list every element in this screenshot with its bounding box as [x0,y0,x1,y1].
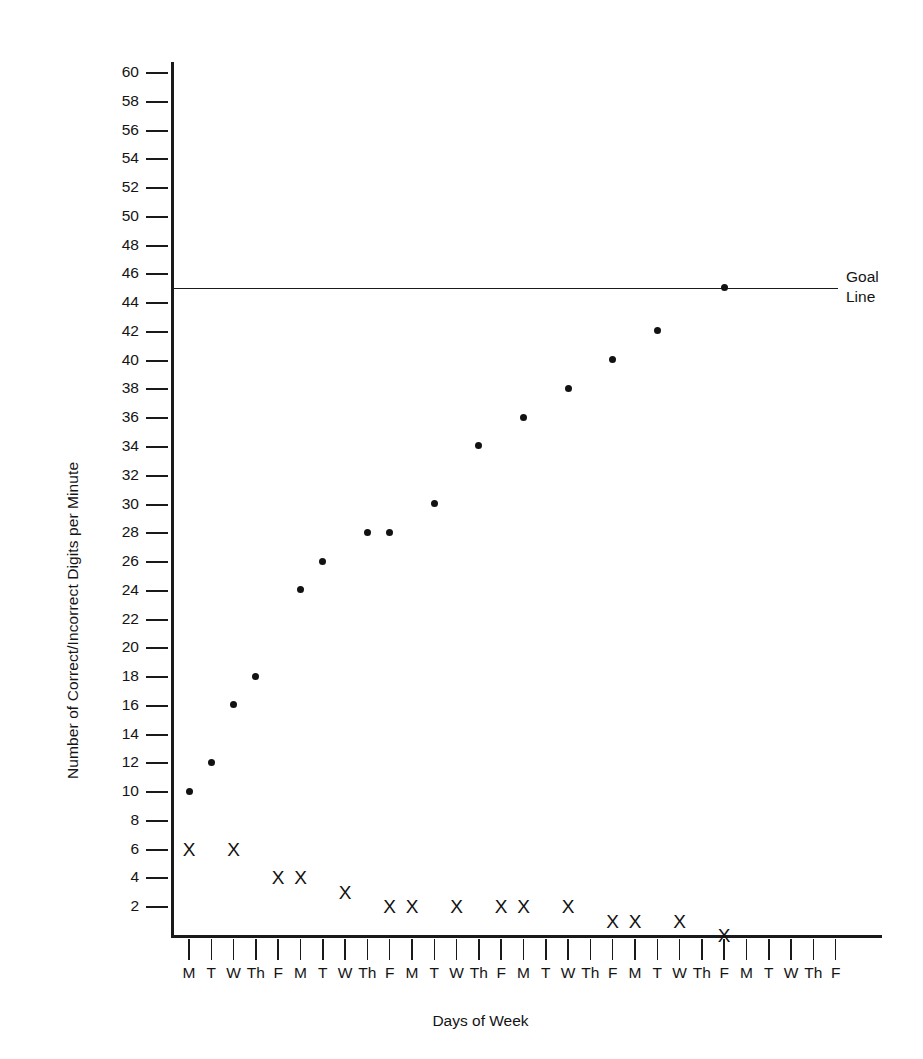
data-point-dot [297,586,304,593]
data-point-x: X [714,926,734,945]
y-tick-label: 46 [82,265,139,281]
x-tick-mark [367,939,369,960]
x-tick-mark [434,939,436,960]
data-point-x: X [625,912,645,931]
y-tick-mark [146,906,168,908]
data-point-x: X [491,897,511,916]
y-tick-label: 52 [82,179,139,195]
data-point-x: X [514,897,534,916]
x-tick-mark [411,939,413,960]
y-tick-mark [146,791,168,793]
data-point-dot [520,414,527,421]
y-tick-label: 54 [82,150,139,166]
y-tick-label: 28 [82,524,139,540]
data-point-x: X [380,897,400,916]
y-tick-label: 48 [82,237,139,253]
x-tick-mark [567,939,569,960]
y-tick-mark [146,820,168,822]
x-tick-mark [634,939,636,960]
y-tick-mark [146,619,168,621]
y-tick-label: 14 [82,726,139,742]
y-tick-mark [146,216,168,218]
y-tick-label: 30 [82,496,139,512]
data-point-dot [609,356,616,363]
y-tick-mark [146,360,168,362]
x-tick-mark [478,939,480,960]
y-tick-mark [146,504,168,506]
x-tick-mark [344,939,346,960]
y-axis-title: Number of Correct/Incorrect Digits per M… [64,462,82,779]
y-tick-label: 16 [82,697,139,713]
y-tick-label: 26 [82,553,139,569]
y-tick-label: 12 [82,754,139,770]
data-point-dot [475,442,482,449]
data-point-x: X [402,897,422,916]
x-tick-mark [211,939,213,960]
y-tick-label: 24 [82,582,139,598]
y-tick-mark [146,72,168,74]
x-tick-mark [657,939,659,960]
chart-canvas: Number of Correct/Incorrect Digits per M… [0,0,923,1059]
y-tick-mark [146,130,168,132]
data-point-dot [386,529,393,536]
y-tick-label: 22 [82,611,139,627]
y-tick-label: 38 [82,380,139,396]
data-point-x: X [335,883,355,902]
x-tick-mark [679,939,681,960]
y-tick-mark [146,734,168,736]
data-point-dot [364,529,371,536]
goal-line-label-line1: Goal [846,267,879,287]
y-tick-label: 40 [82,352,139,368]
data-point-x: X [268,868,288,887]
y-tick-label: 60 [82,64,139,80]
y-tick-mark [146,187,168,189]
x-tick-mark [590,939,592,960]
data-point-x: X [447,897,467,916]
y-tick-label: 4 [82,869,139,885]
y-tick-mark [146,647,168,649]
y-tick-mark [146,388,168,390]
x-tick-mark [255,939,257,960]
data-point-dot [230,701,237,708]
y-tick-mark [146,590,168,592]
x-tick-mark [701,939,703,960]
data-point-x: X [558,897,578,916]
x-tick-mark [188,939,190,960]
x-tick-mark [277,939,279,960]
y-tick-mark [146,762,168,764]
y-tick-mark [146,302,168,304]
x-tick-mark [746,939,748,960]
y-tick-label: 18 [82,668,139,684]
goal-line [172,288,838,289]
x-tick-label: F [821,965,851,981]
y-tick-mark [146,245,168,247]
x-tick-mark [768,939,770,960]
y-tick-label: 44 [82,294,139,310]
x-tick-mark [322,939,324,960]
y-tick-mark [146,705,168,707]
y-tick-label: 56 [82,122,139,138]
y-tick-label: 42 [82,323,139,339]
y-tick-label: 20 [82,639,139,655]
y-tick-mark [146,849,168,851]
data-point-x: X [291,868,311,887]
x-tick-mark [389,939,391,960]
y-tick-mark [146,331,168,333]
goal-line-label-line2: Line [846,287,879,307]
y-tick-label: 50 [82,208,139,224]
y-tick-label: 36 [82,409,139,425]
y-axis-line [171,62,174,937]
x-tick-mark [545,939,547,960]
data-point-dot [565,385,572,392]
data-point-dot [654,327,661,334]
y-tick-mark [146,417,168,419]
y-tick-label: 10 [82,783,139,799]
x-axis-line [171,935,882,938]
y-tick-mark [146,561,168,563]
y-tick-mark [146,101,168,103]
y-tick-mark [146,532,168,534]
y-tick-label: 34 [82,438,139,454]
data-point-dot [721,284,728,291]
y-tick-label: 8 [82,812,139,828]
data-point-dot [252,673,259,680]
